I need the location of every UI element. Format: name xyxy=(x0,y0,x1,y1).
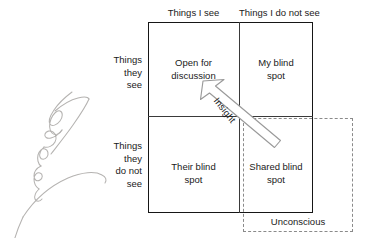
quadrant-label-line: spot xyxy=(148,173,239,186)
quadrant-label-line: Open for xyxy=(148,56,239,69)
quadrant-my-blind-spot: My blind spot xyxy=(239,56,313,82)
row-header-line: they xyxy=(96,153,142,166)
row-header-line: they xyxy=(96,67,142,80)
column-header-things-i-do-not-see: Things I do not see xyxy=(239,6,313,20)
quadrant-label-line: Shared blind xyxy=(239,160,313,173)
row-header-things-they-do-not-see: Things they do not see xyxy=(96,140,142,190)
quadrant-shared-blind-spot: Shared blind spot xyxy=(239,160,313,186)
quadrant-label-line: Their blind xyxy=(148,160,239,173)
quadrant-label-line: discussion xyxy=(148,69,239,82)
row-header-line: Things xyxy=(96,54,142,67)
column-header-things-i-see: Things I see xyxy=(148,6,239,20)
quadrant-label-line: My blind xyxy=(239,56,313,69)
johari-window-diagram: Things I see Things I do not see Things … xyxy=(0,0,368,248)
row-header-things-they-see: Things they see xyxy=(96,54,142,92)
row-header-line: see xyxy=(96,178,142,191)
row-header-line: see xyxy=(96,79,142,92)
row-header-line: do not xyxy=(96,165,142,178)
quadrant-open-for-discussion: Open for discussion xyxy=(148,56,239,82)
row-header-line: Things xyxy=(96,140,142,153)
quadrant-their-blind-spot: Their blind spot xyxy=(148,160,239,186)
quadrant-label-line: spot xyxy=(239,173,313,186)
quadrant-label-line: spot xyxy=(239,69,313,82)
unconscious-label: Unconscious xyxy=(243,214,353,230)
